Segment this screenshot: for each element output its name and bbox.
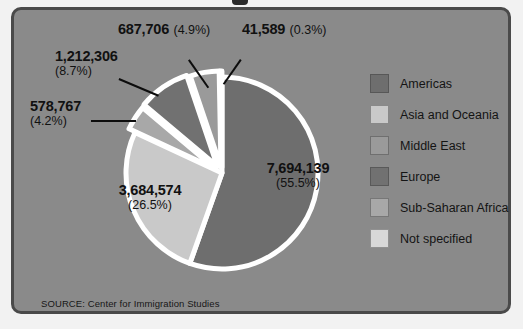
legend-label: Americas [400,77,452,91]
callout-europe: 1,212,306 (8.7%) [55,48,118,78]
callout-not-specified-value: 41,589 [242,21,285,37]
legend-swatch [370,136,389,155]
callout-asia-and-oceania-percent: (26.5%) [90,198,210,212]
leader-line-sub-saharan [91,120,136,122]
callout-middle-east-value: 687,706 [118,21,169,37]
callout-sub-saharan-africa-percent: (4.2%) [30,114,81,128]
legend-label: Europe [400,170,440,184]
legend-swatch [370,198,389,217]
callout-middle-east-percent: (4.9%) [173,23,210,37]
callout-asia-and-oceania-value: 3,684,574 [90,182,210,198]
callout-not-specified-percent: (0.3%) [290,23,327,37]
legend-item[interactable]: Sub-Saharan Africa [370,192,520,223]
callout-sub-saharan-africa: 578,767 (4.2%) [30,98,81,128]
legend-swatch [370,74,389,93]
callout-europe-value: 1,212,306 [55,48,118,64]
legend-label: Sub-Saharan Africa [400,201,508,215]
legend-label: Asia and Oceania [400,108,499,122]
legend-item[interactable]: Middle East [370,130,520,161]
legend-swatch [370,105,389,124]
legend-swatch [370,229,389,248]
legend-item[interactable]: Europe [370,161,520,192]
legend-label: Middle East [400,139,465,153]
callout-middle-east: 687,706 (4.9%) [118,20,210,38]
callout-americas-percent: (55.5%) [238,176,358,190]
legend-swatch [370,167,389,186]
chart-figure: 687,706 (4.9%) 41,589 (0.3%) 1,212,306 (… [0,0,523,329]
legend-label: Not specified [400,232,472,246]
callout-asia-and-oceania: 3,684,574 (26.5%) [90,182,210,212]
pie-slice[interactable] [220,71,222,167]
callout-sub-saharan-africa-value: 578,767 [30,98,81,114]
source-note: SOURCE: Center for Immigration Studies [41,298,220,309]
callout-americas-value: 7,694,139 [238,160,358,176]
callout-not-specified: 41,589 (0.3%) [242,20,326,38]
legend-item[interactable]: Americas [370,68,520,99]
legend: AmericasAsia and OceaniaMiddle EastEurop… [370,68,520,254]
legend-item[interactable]: Not specified [370,223,520,254]
cropped-title-remnant [232,0,248,5]
callout-americas: 7,694,139 (55.5%) [238,160,358,190]
legend-item[interactable]: Asia and Oceania [370,99,520,130]
chart-panel: 687,706 (4.9%) 41,589 (0.3%) 1,212,306 (… [11,7,511,314]
callout-europe-percent: (8.7%) [55,64,118,78]
